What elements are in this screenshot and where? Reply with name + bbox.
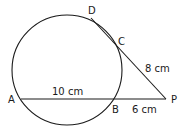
point-label-d: D — [88, 5, 96, 16]
length-label-bp: 6 cm — [132, 104, 157, 115]
length-label-ab: 10 cm — [52, 86, 83, 97]
point-label-p: P — [171, 94, 177, 105]
point-label-c: C — [118, 36, 125, 47]
length-label-cp: 8 cm — [145, 63, 170, 74]
secant-dcp — [91, 18, 166, 99]
point-label-b: B — [112, 104, 119, 115]
secant-diagram: D C A B P 10 cm 6 cm 8 cm — [0, 0, 188, 130]
point-label-a: A — [8, 94, 15, 105]
circle — [12, 15, 122, 125]
